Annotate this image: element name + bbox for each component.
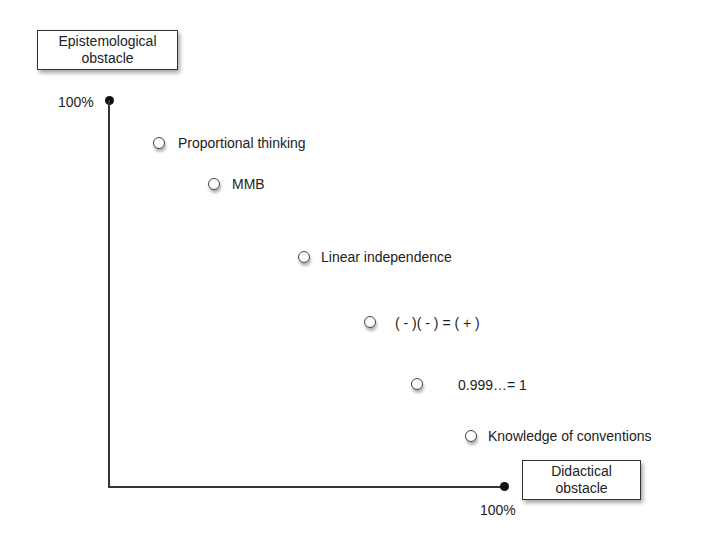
point-marker: [208, 178, 220, 190]
x-axis-end-dot: [500, 482, 509, 491]
x-axis-line: [108, 486, 506, 488]
point-marker: [411, 378, 423, 390]
x-axis-max-label: 100%: [480, 502, 516, 518]
point-marker: [153, 137, 165, 149]
point-marker: [465, 430, 477, 442]
y-axis-label-line2: obstacle: [38, 50, 177, 67]
point-label: MMB: [232, 176, 265, 192]
x-axis-label-line2: obstacle: [523, 480, 640, 497]
point-label: Linear independence: [321, 249, 452, 265]
point-marker: [298, 251, 310, 263]
y-axis-label-box: Epistemological obstacle: [37, 30, 178, 70]
point-label: 0.999…= 1: [458, 377, 527, 393]
y-axis-line: [108, 100, 110, 488]
y-axis-label-line1: Epistemological: [38, 33, 177, 50]
point-marker: [364, 316, 376, 328]
point-label: Knowledge of conventions: [488, 428, 651, 444]
point-label: Proportional thinking: [178, 135, 306, 151]
point-label: ( - )( - ) = ( + ): [395, 315, 480, 331]
x-axis-label-line1: Didactical: [523, 463, 640, 480]
x-axis-label-box: Didactical obstacle: [522, 460, 641, 500]
y-axis-max-label: 100%: [58, 94, 94, 110]
